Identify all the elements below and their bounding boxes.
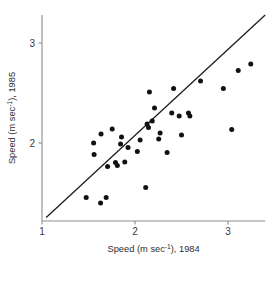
data-point — [158, 131, 163, 136]
data-point — [126, 145, 131, 150]
identity-reference-line — [46, 15, 265, 218]
data-point — [229, 127, 234, 132]
data-point — [152, 106, 157, 111]
data-point — [105, 164, 110, 169]
data-point — [171, 86, 176, 91]
scatter-plot-figure: 12323 Speed (m sec-1), 1984Speed (m sec-… — [0, 0, 277, 289]
tick-labels: 12323 — [29, 38, 231, 237]
data-point — [165, 150, 170, 155]
data-point — [143, 185, 148, 190]
x-tick-label-2: 2 — [132, 226, 138, 237]
data-point — [150, 119, 155, 124]
data-point — [104, 195, 109, 200]
data-point — [187, 114, 192, 119]
x-tick-label-1: 1 — [39, 226, 45, 237]
data-point — [119, 135, 124, 140]
reference-line — [46, 15, 265, 218]
data-points — [84, 62, 254, 206]
data-point — [92, 152, 97, 157]
data-point — [122, 160, 127, 165]
data-point — [91, 141, 96, 146]
data-point — [98, 201, 103, 206]
data-point — [198, 79, 203, 84]
data-point — [110, 127, 115, 132]
data-point — [138, 138, 143, 143]
data-point — [236, 68, 241, 73]
tick-marks — [39, 43, 229, 225]
data-point — [99, 132, 104, 137]
data-point — [115, 163, 120, 168]
y-tick-label-3: 3 — [29, 38, 35, 49]
chart-canvas: 12323 Speed (m sec-1), 1984Speed (m sec-… — [0, 0, 277, 289]
data-point — [147, 90, 152, 95]
x-tick-label-3: 3 — [225, 226, 231, 237]
data-point — [169, 111, 174, 116]
data-point — [248, 62, 253, 67]
data-point — [118, 142, 123, 147]
axis-titles: Speed (m sec-1), 1984Speed (m sec-1), 19… — [6, 72, 200, 254]
data-point — [179, 133, 184, 138]
data-point — [177, 114, 182, 119]
data-point — [221, 86, 226, 91]
data-point — [146, 125, 151, 130]
data-point — [84, 195, 89, 200]
y-axis-title: Speed (m sec-1), 1985 — [6, 72, 18, 164]
data-point — [156, 137, 161, 142]
y-tick-label-2: 2 — [29, 138, 35, 149]
data-point — [135, 149, 140, 154]
x-axis-title: Speed (m sec-1), 1984 — [108, 243, 200, 255]
